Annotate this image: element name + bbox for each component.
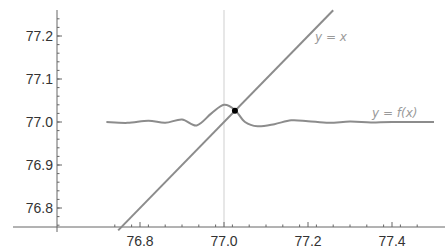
fixed-point-marker — [232, 108, 238, 114]
x-tick-label: 77.2 — [294, 233, 321, 249]
chart: 76.877.077.277.4 76.876.977.077.177.2 y … — [0, 0, 445, 252]
y-tick-label: 77.1 — [26, 71, 53, 87]
label-y-equals-x: y = x — [314, 30, 348, 44]
x-tick-label: 77.0 — [210, 233, 237, 249]
x-tick-label: 76.8 — [126, 233, 153, 249]
y-tick-label: 76.9 — [26, 157, 53, 173]
x-tick-label: 77.4 — [378, 233, 405, 249]
y-tick-label: 77.2 — [26, 28, 53, 44]
y-tick-label: 76.8 — [26, 200, 53, 216]
axes — [13, 10, 445, 232]
y-tick-label: 77.0 — [26, 114, 53, 130]
x-axis-ticks: 76.877.077.277.4 — [115, 222, 417, 249]
label-y-equals-f-of-x: y = f(x) — [371, 106, 417, 120]
